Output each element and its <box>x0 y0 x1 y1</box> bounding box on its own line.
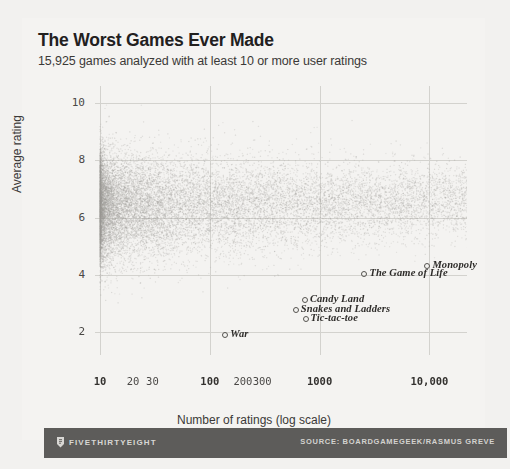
x-axis-tick-label: 1000 <box>307 375 332 387</box>
x-axis-tick-label: 100 <box>200 375 219 387</box>
y-axis-tick-label: 4 <box>59 268 85 281</box>
source-credit: SOURCE: BOARDGAMEGEEK/RASMUS GREVE <box>300 437 495 446</box>
fivethirtyeight-logo: FIVETHIRTYEIGHT <box>56 437 157 448</box>
chart-subtitle: 15,925 games analyzed with at least 10 o… <box>38 54 367 68</box>
page-title: The Worst Games Ever Made <box>38 30 274 51</box>
x-axis-tick-label: 300 <box>253 375 272 387</box>
y-axis-tick-label: 2 <box>59 325 85 338</box>
x-axis-title: Number of ratings (log scale) <box>44 413 464 427</box>
x-axis-tick-label: 20 <box>127 375 140 387</box>
x-axis-tick-label: 200 <box>233 375 252 387</box>
x-axis-tick-label: 10,000 <box>410 375 448 387</box>
x-axis-tick-label: 10 <box>94 375 107 387</box>
y-axis-tick-label: 10 <box>59 96 85 109</box>
y-axis-tick-label: 8 <box>59 153 85 166</box>
annotation-label: Tic-tac-toe <box>311 312 358 323</box>
annotation-marker-dot <box>222 332 228 338</box>
y-axis-tick-label: 6 <box>59 211 85 224</box>
chart-card: The Worst Games Ever Made 15,925 games a… <box>22 18 485 440</box>
brand-wordmark: FIVETHIRTYEIGHT <box>69 438 157 447</box>
scatter-point-cloud <box>95 86 467 355</box>
x-axis-tick-label: 30 <box>146 375 159 387</box>
annotation-marker-dot <box>293 307 299 313</box>
y-axis-title: Average rating <box>10 115 24 193</box>
annotation-label: War <box>230 328 248 339</box>
chart-footer: FIVETHIRTYEIGHT SOURCE: BOARDGAMEGEEK/RA… <box>44 428 507 458</box>
scatter-plot-area: MonopolyThe Game of LifeCandy LandSnakes… <box>95 86 467 355</box>
flag-icon <box>56 437 65 448</box>
annotation-marker-dot <box>303 316 309 322</box>
annotation-label: The Game of Life <box>369 267 447 278</box>
